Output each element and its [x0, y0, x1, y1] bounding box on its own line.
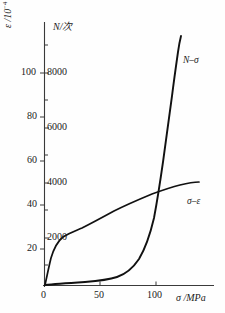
- chart-figure: ε /10−4 N/次 σ /MPa 100 80 60 40 20 8000 …: [0, 0, 225, 313]
- y-axis-right-tick-label-4000: 4000: [47, 177, 67, 187]
- y-axis-right-tick-label-6000: 6000: [47, 122, 67, 132]
- y-axis-left-title: ε /10−4: [2, 2, 13, 28]
- y-axis-right-tick-label-8000: 8000: [47, 67, 67, 77]
- x-axis-tick-label-0: 0: [41, 290, 46, 300]
- y-axis-right-title: N/次: [53, 22, 72, 32]
- curve-label-sigma-epsilon: σ–ε: [187, 197, 200, 207]
- y-axis-left-ticks: [40, 73, 45, 249]
- x-axis-tick-label-50: 50: [94, 290, 104, 300]
- x-axis-tick-label-100: 100: [147, 290, 162, 300]
- y-axis-left-tick-label-60: 60: [27, 155, 37, 165]
- y-axis-left-title-base: ε /10: [2, 9, 13, 28]
- curve-sigma-epsilon: [45, 182, 199, 285]
- x-axis-title: σ /MPa: [176, 293, 206, 303]
- y-axis-left-tick-label-80: 80: [27, 111, 37, 121]
- y-axis-left-tick-label-20: 20: [27, 243, 37, 253]
- y-axis-left-title-exponent: −4: [1, 2, 8, 9]
- y-axis-left-tick-label-100: 100: [21, 67, 36, 77]
- curve-label-n-sigma: N–σ: [183, 56, 199, 66]
- y-axis-right-tick-label-2000: 2000: [47, 232, 67, 242]
- y-axis-left-tick-label-40: 40: [27, 199, 37, 209]
